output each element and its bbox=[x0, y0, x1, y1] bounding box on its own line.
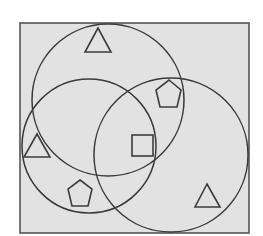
universe-rectangle bbox=[20, 23, 249, 233]
venn-diagram bbox=[0, 0, 263, 236]
